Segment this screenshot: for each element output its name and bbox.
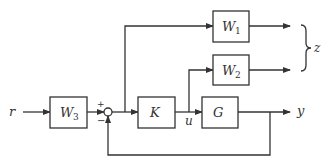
signal-r-label: r bbox=[9, 104, 16, 119]
block-diagram: r W 3 + − K u G y W 1 bbox=[0, 0, 331, 166]
block-w1: W 1 bbox=[213, 11, 249, 42]
block-w2-subscript: 2 bbox=[235, 70, 241, 80]
block-w2: W 2 bbox=[213, 55, 249, 85]
block-w3-subscript: 3 bbox=[73, 112, 79, 122]
z-brace bbox=[301, 25, 311, 71]
signal-r: r bbox=[9, 104, 50, 119]
sum-minus-sign: − bbox=[97, 115, 105, 126]
sum-plus-sign: + bbox=[97, 99, 105, 109]
block-g: G bbox=[202, 97, 238, 128]
block-k-label: K bbox=[149, 105, 161, 120]
block-g-label: G bbox=[213, 105, 223, 120]
signal-u-label: u bbox=[185, 114, 193, 128]
block-k: K bbox=[138, 97, 175, 128]
block-w3: W 3 bbox=[50, 97, 87, 128]
block-w1-subscript: 1 bbox=[235, 26, 241, 36]
signal-z-label: z bbox=[313, 41, 321, 55]
signal-y-label: y bbox=[296, 103, 305, 118]
